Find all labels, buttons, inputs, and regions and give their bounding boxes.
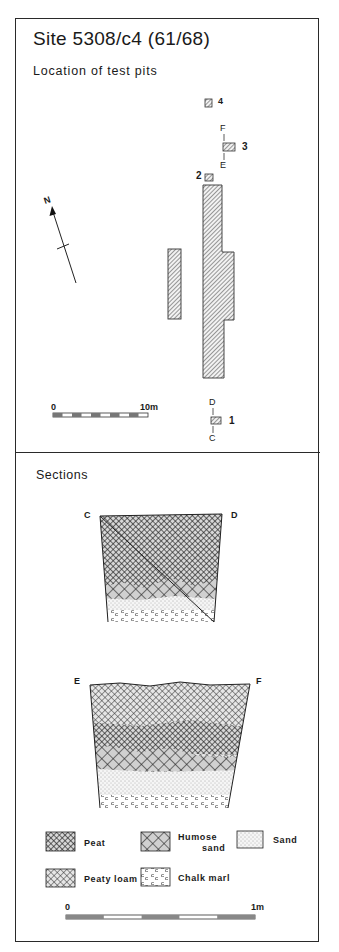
- legend-label-humose-1: Humose: [178, 832, 217, 842]
- section-scale-bar: [66, 915, 255, 919]
- plan-scale-bar: [53, 413, 148, 417]
- legend-label-humose-2: sand: [202, 843, 225, 853]
- pit-2-label: 2: [196, 171, 202, 181]
- legend-label-peat: Peat: [84, 838, 105, 848]
- legend-swatch-peat: [46, 832, 75, 851]
- legend-label-chalk: Chalk marl: [178, 873, 230, 883]
- legend-label-peatyloam: Peaty loam: [84, 874, 138, 884]
- section-cd-right-label: D: [231, 511, 238, 520]
- section-cd-left-label: C: [84, 511, 91, 520]
- section-line-d-label: D: [209, 398, 216, 407]
- section-scale-end: 1m: [251, 903, 264, 912]
- test-pit-4: [205, 99, 212, 107]
- legend-swatch-peatyloam: [46, 869, 75, 887]
- section-line-f-label: F: [220, 124, 226, 133]
- test-pit-3: [223, 134, 235, 160]
- pit-4-label: 4: [218, 97, 223, 106]
- legend-swatch-humose: [141, 832, 170, 851]
- section-ef-left-label: E: [74, 677, 80, 686]
- building-main: [203, 185, 234, 378]
- sections-heading: Sections: [36, 468, 88, 482]
- section-cd: [95, 510, 230, 625]
- pit-1-label: 1: [229, 416, 235, 426]
- legend-label-sand: Sand: [273, 835, 297, 845]
- section-ef-right-label: F: [256, 677, 262, 686]
- test-pit-2: [205, 174, 213, 181]
- legend-swatch-chalk: [141, 868, 170, 886]
- building-west: [168, 249, 181, 319]
- pit-3-label: 3: [242, 142, 248, 152]
- legend-swatch-sand: [237, 831, 263, 848]
- test-pit-1: [211, 408, 221, 433]
- plan-scale-end: 10m: [140, 403, 158, 412]
- plan-scale-start: 0: [51, 403, 56, 412]
- section-line-e-label: E: [220, 161, 226, 170]
- north-arrow-icon: [50, 206, 77, 283]
- section-ef: [85, 678, 255, 813]
- section-scale-start: 0: [65, 903, 70, 912]
- section-line-c-label: C: [209, 434, 216, 443]
